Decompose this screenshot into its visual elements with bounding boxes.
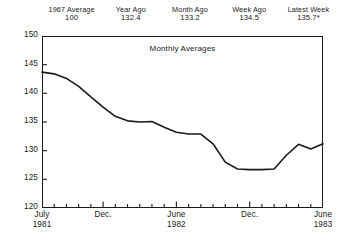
x-axis-ticks bbox=[54, 202, 311, 209]
x-tick-label: Dec. bbox=[94, 210, 111, 220]
x-axis-labels: July1981Dec.June1982Dec.June1983 bbox=[0, 210, 356, 244]
x-tick-label-month: Dec. bbox=[94, 210, 111, 220]
chart-figure: 1967 Average 100 Year Ago 132.4 Month Ag… bbox=[0, 0, 356, 248]
x-tick-label-month: Dec. bbox=[241, 210, 258, 220]
x-tick-label-month: June bbox=[314, 210, 333, 220]
x-tick-label: July1981 bbox=[33, 210, 52, 231]
x-tick-label: Dec. bbox=[241, 210, 258, 220]
y-axis-ticks bbox=[42, 65, 47, 180]
x-tick-label-month: July bbox=[33, 210, 52, 220]
x-tick-label: June1982 bbox=[167, 210, 186, 231]
data-series-line bbox=[42, 72, 323, 169]
x-tick-label-month: June bbox=[167, 210, 186, 220]
x-tick-label: June1983 bbox=[314, 210, 333, 231]
x-tick-label-year: 1981 bbox=[33, 220, 52, 230]
x-tick-label-year: 1983 bbox=[314, 220, 333, 230]
x-tick-label-year: 1982 bbox=[167, 220, 186, 230]
